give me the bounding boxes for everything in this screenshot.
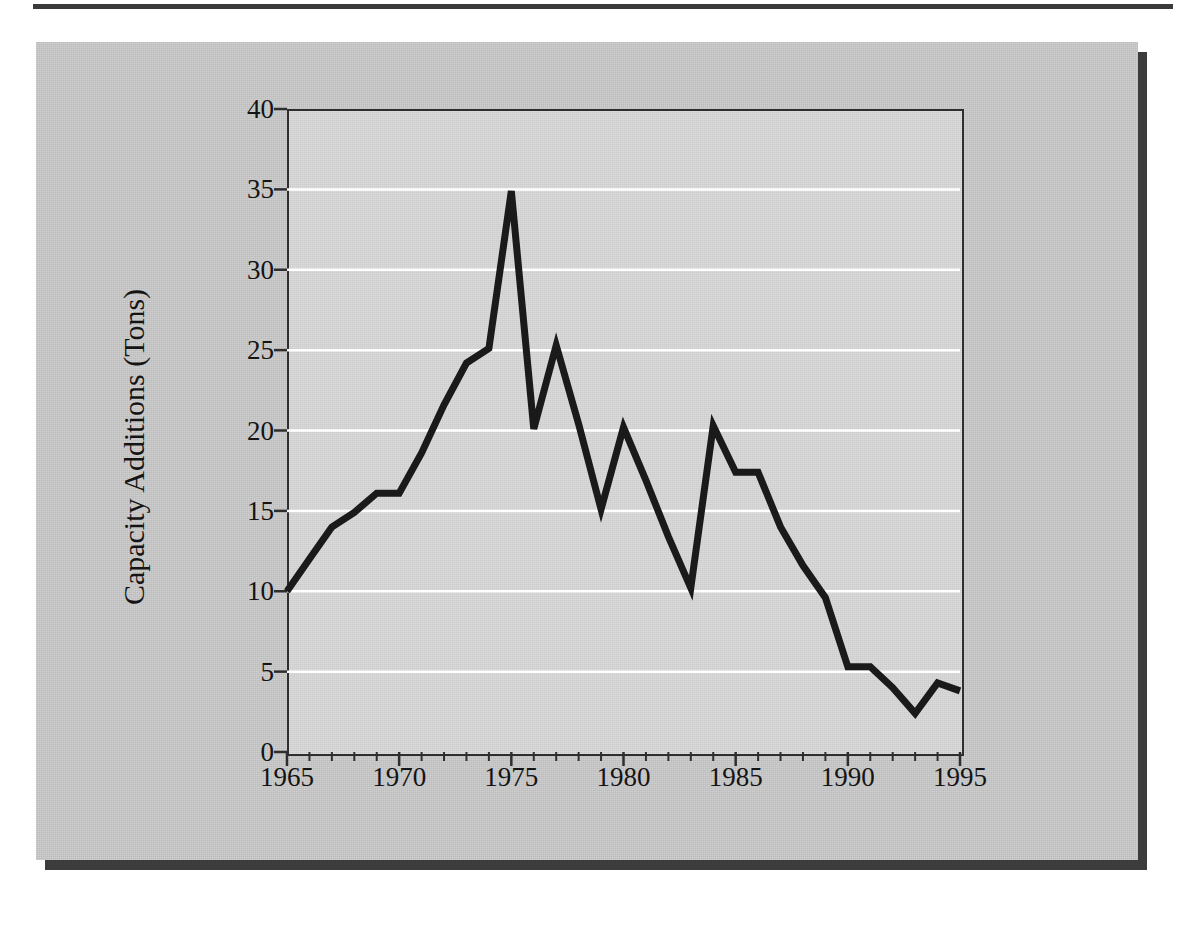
- y-axis-tick-label: 30: [247, 257, 274, 284]
- x-axis-tick-label: 1985: [709, 764, 763, 791]
- y-axis-tick-label: 25: [247, 337, 274, 364]
- y-axis-tick-label: 20: [247, 418, 274, 445]
- y-axis-tick-label: 10: [247, 578, 274, 605]
- y-axis-tick-labels: 0510152025303540: [216, 42, 274, 860]
- y-axis-tick-label: 5: [261, 659, 275, 686]
- page-top-rule: [33, 4, 1173, 9]
- figure-panel: 0510152025303540 19651970197519801985199…: [36, 42, 1138, 860]
- x-axis-tick-label: 1965: [260, 764, 314, 791]
- page-root: 0510152025303540 19651970197519801985199…: [0, 0, 1192, 928]
- x-axis-tick-label: 1990: [821, 764, 875, 791]
- y-axis-tick-label: 35: [247, 176, 274, 203]
- x-axis-tick-label: 1975: [484, 764, 538, 791]
- x-axis-tick-label: 1980: [597, 764, 651, 791]
- plot-svg: [287, 109, 960, 752]
- x-axis-tick-label: 1995: [933, 764, 987, 791]
- y-axis-title: Capacity Additions (Tons): [117, 237, 151, 657]
- line-chart: 0510152025303540 19651970197519801985199…: [36, 42, 1138, 860]
- x-axis-tick-label: 1970: [372, 764, 426, 791]
- y-axis-major-ticks: [274, 109, 287, 752]
- y-axis-tick-label: 15: [247, 498, 274, 525]
- y-axis-tick-label: 40: [247, 96, 274, 123]
- x-axis-tick-labels: 1965197019751980198519901995: [287, 764, 960, 804]
